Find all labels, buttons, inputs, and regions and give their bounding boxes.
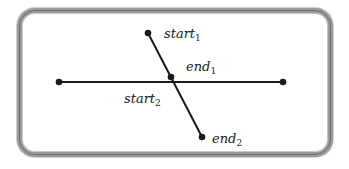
horizontal-left-endpoint — [56, 79, 63, 86]
label-start1: start1 — [164, 27, 201, 43]
label-end1: end1 — [186, 60, 216, 76]
horizontal-right-endpoint — [280, 79, 287, 86]
end1-point — [168, 74, 175, 81]
diagonal-segment — [148, 33, 202, 137]
label-start2: start2 — [124, 92, 161, 108]
label-end2: end2 — [212, 132, 242, 148]
end2-point — [199, 134, 206, 141]
start1-point — [145, 30, 152, 37]
